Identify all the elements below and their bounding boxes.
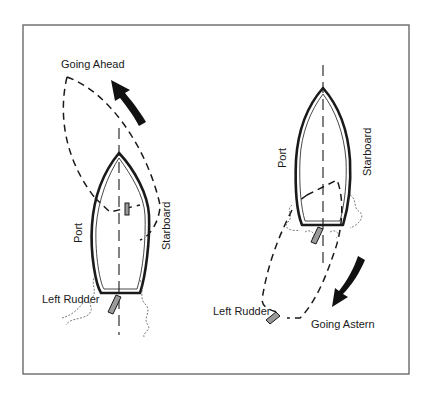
going-astern-label: Going Astern: [311, 318, 375, 330]
right-ghost-hull: [262, 180, 342, 318]
left-starboard-label: Starboard: [160, 202, 172, 250]
boat-steering-diagram: Going Ahead Port Starboard Left Rudder P…: [0, 0, 430, 398]
left-boat-hull: [92, 153, 150, 293]
left-ghost-hull: [63, 77, 160, 240]
right-port-label: Port: [276, 148, 288, 168]
going-ahead-arrow-icon: [111, 80, 146, 126]
left-rudder-label: Left Rudder: [42, 293, 100, 305]
left-prop-wash: [62, 275, 149, 338]
left-port-label: Port: [72, 223, 84, 243]
right-boat-rudder-icon: [311, 227, 323, 244]
going-astern-arrow-icon: [332, 256, 365, 307]
going-astern-panel: Port Starboard Left Rudder Going Astern: [213, 65, 375, 330]
right-rudder-label: Left Rudder: [213, 305, 271, 317]
going-ahead-panel: Going Ahead Port Starboard Left Rudder: [42, 58, 172, 338]
left-boat-cabin-mark: [125, 203, 129, 215]
right-starboard-label: Starboard: [361, 128, 373, 176]
going-ahead-label: Going Ahead: [61, 58, 125, 70]
